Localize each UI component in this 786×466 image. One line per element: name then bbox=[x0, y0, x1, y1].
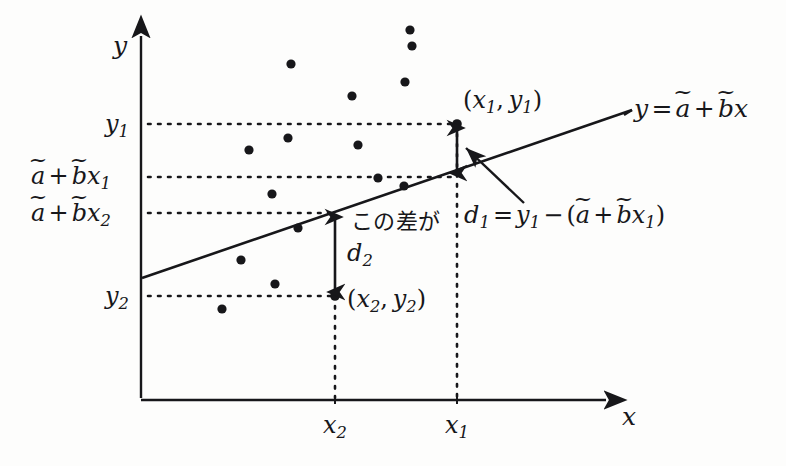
f-minus: − bbox=[540, 201, 566, 229]
tilde-a: a bbox=[31, 201, 45, 225]
plus-op: + bbox=[45, 199, 71, 227]
data-point bbox=[405, 25, 414, 34]
open-paren: ( bbox=[463, 86, 472, 114]
regression-residual-figure: y x y1 a+bx1 a+bx2 y2 x2 x1 y=a+bx (x1, … bbox=[0, 0, 786, 466]
data-point bbox=[270, 279, 279, 288]
d2-base: d bbox=[347, 239, 362, 267]
x-tick-label-x2: x2 bbox=[323, 413, 347, 437]
p2-y: y bbox=[393, 285, 407, 313]
tilde-a: a bbox=[576, 203, 590, 227]
plus-op: + bbox=[690, 94, 717, 123]
eq-lhs: y bbox=[634, 94, 648, 123]
data-point bbox=[286, 59, 295, 68]
y1-sub: 1 bbox=[119, 122, 129, 141]
tilde-b: b bbox=[72, 201, 87, 225]
regression-line bbox=[142, 110, 632, 278]
f-eq: = bbox=[490, 201, 516, 229]
p1-y: y bbox=[509, 86, 523, 114]
tilde-a: a bbox=[676, 96, 691, 121]
x1-sub: 1 bbox=[459, 423, 469, 442]
x-axis-label: x bbox=[622, 404, 636, 429]
x-tick-label-x1: x1 bbox=[445, 413, 469, 437]
p2-y-sub: 2 bbox=[406, 297, 416, 316]
p2-x-sub: 2 bbox=[370, 297, 380, 316]
f-d: d bbox=[464, 201, 479, 229]
y-tick-label-y1: y1 bbox=[105, 112, 129, 136]
d2-sub: 2 bbox=[362, 251, 372, 270]
data-point bbox=[293, 223, 302, 232]
eq-sign: = bbox=[648, 94, 675, 123]
var-x: x bbox=[87, 162, 101, 190]
x1-base: x bbox=[445, 411, 459, 439]
y-axis-label: y bbox=[113, 33, 127, 58]
data-point bbox=[267, 189, 276, 198]
data-point bbox=[236, 255, 245, 264]
scatter-points bbox=[217, 25, 461, 313]
y-tick-label-a-plus-bx2: a+bx2 bbox=[31, 201, 111, 225]
data-point bbox=[353, 140, 362, 149]
tilde-b: b bbox=[718, 96, 734, 121]
residual-label-d2: d2 bbox=[347, 241, 373, 265]
x2-sub: 2 bbox=[337, 423, 347, 442]
data-point bbox=[373, 173, 382, 182]
point-label-x2-y2: (x2, y2) bbox=[347, 287, 426, 311]
residual-formula-d1: d1=y1−(a+bx1) bbox=[464, 203, 665, 227]
y2-sub: 2 bbox=[119, 294, 129, 313]
y1-base: y bbox=[105, 110, 119, 138]
f-d-sub: 1 bbox=[479, 213, 489, 232]
data-point-x1-y1 bbox=[452, 119, 462, 129]
data-point-x2-y2 bbox=[330, 291, 340, 301]
p1-y-sub: 1 bbox=[522, 98, 532, 117]
tilde-b: b bbox=[616, 203, 631, 227]
regression-equation-label: y=a+bx bbox=[634, 96, 748, 121]
eq-x: x bbox=[734, 94, 748, 123]
f-close: ) bbox=[656, 201, 665, 229]
open-paren: ( bbox=[347, 285, 356, 313]
close-paren: ) bbox=[417, 285, 426, 313]
f-x: x bbox=[632, 201, 646, 229]
f-y-sub: 1 bbox=[530, 213, 540, 232]
y2-base: y bbox=[105, 282, 119, 310]
y-tick-label-y2: y2 bbox=[105, 284, 129, 308]
p2-x: x bbox=[356, 285, 370, 313]
p1-x-sub: 1 bbox=[486, 98, 496, 117]
close-paren: ) bbox=[533, 86, 542, 114]
data-point bbox=[244, 145, 253, 154]
var-x: x bbox=[87, 199, 101, 227]
f-x-sub: 1 bbox=[645, 213, 655, 232]
japanese-note: この差が bbox=[351, 203, 441, 235]
data-point bbox=[399, 181, 408, 190]
comma: , bbox=[496, 86, 504, 114]
p1-x: x bbox=[472, 86, 486, 114]
data-point bbox=[400, 77, 409, 86]
f-plus: + bbox=[590, 201, 616, 229]
comma: , bbox=[380, 285, 388, 313]
x2-base: x bbox=[323, 411, 337, 439]
data-point bbox=[347, 91, 356, 100]
var-x-sub: 2 bbox=[101, 211, 111, 230]
f-y: y bbox=[516, 201, 530, 229]
data-point bbox=[217, 304, 226, 313]
data-point bbox=[283, 133, 292, 142]
plus-op: + bbox=[45, 162, 71, 190]
var-x-sub: 1 bbox=[101, 174, 111, 193]
data-point bbox=[407, 41, 416, 50]
point-label-x1-y1: (x1, y1) bbox=[463, 88, 542, 112]
